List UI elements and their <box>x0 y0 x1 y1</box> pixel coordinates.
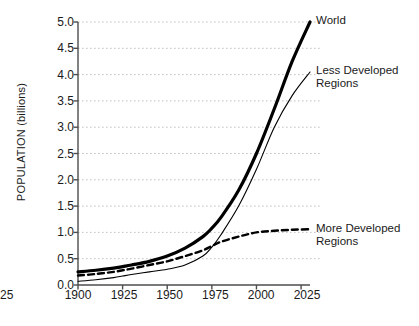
series-annotation-less-developed-regions: Less Developed Regions <box>316 64 398 89</box>
population-growth-chart: POPULATION (billions) 0.0 0.5 1.0 1.5 2.… <box>0 0 419 326</box>
series-line-world <box>78 22 310 272</box>
axis-ticks <box>74 22 302 290</box>
series-annotation-more-developed-regions: More Developed Regions <box>316 222 400 247</box>
gridlines <box>78 22 322 259</box>
plot-area <box>0 0 419 326</box>
series-annotation-world: World <box>316 14 346 27</box>
series-lines <box>78 22 310 281</box>
